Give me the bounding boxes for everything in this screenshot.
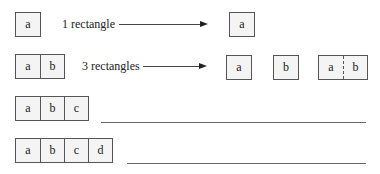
cell: a	[230, 13, 254, 36]
row2-arrow-shaft	[143, 66, 200, 67]
cell: b	[274, 56, 298, 79]
row1-result-box: a	[229, 12, 255, 37]
cell: b	[40, 139, 64, 162]
cell: b	[40, 97, 64, 120]
cell: c	[64, 97, 88, 120]
row2-result-box-b: b	[273, 55, 299, 80]
row2-arrow-head-icon	[199, 63, 207, 69]
cell: d	[88, 139, 112, 162]
cell: a	[16, 13, 40, 36]
row1-label: 1 rectangle	[62, 17, 115, 31]
row1-arrow-head-icon	[200, 21, 208, 27]
cell: a	[319, 56, 343, 79]
cell: b	[40, 55, 64, 78]
row1-input-box: a	[15, 12, 41, 37]
row2-result-box-a: a	[226, 55, 252, 80]
row2-input-box: a b	[15, 54, 65, 79]
cell: c	[64, 139, 88, 162]
cell: a	[16, 139, 40, 162]
row3-input-box: a b c	[15, 96, 89, 121]
row2-label: 3 rectangles	[82, 59, 140, 73]
cell: a	[16, 97, 40, 120]
row2-result-box-ab: a b	[318, 55, 368, 80]
row4-input-box: a b c d	[15, 138, 113, 163]
row1-arrow-shaft	[119, 24, 201, 25]
cell: a	[227, 56, 251, 79]
row4-answer-line	[127, 163, 366, 164]
cell: b	[343, 56, 367, 79]
cell: a	[16, 55, 40, 78]
row3-answer-line	[101, 122, 366, 123]
